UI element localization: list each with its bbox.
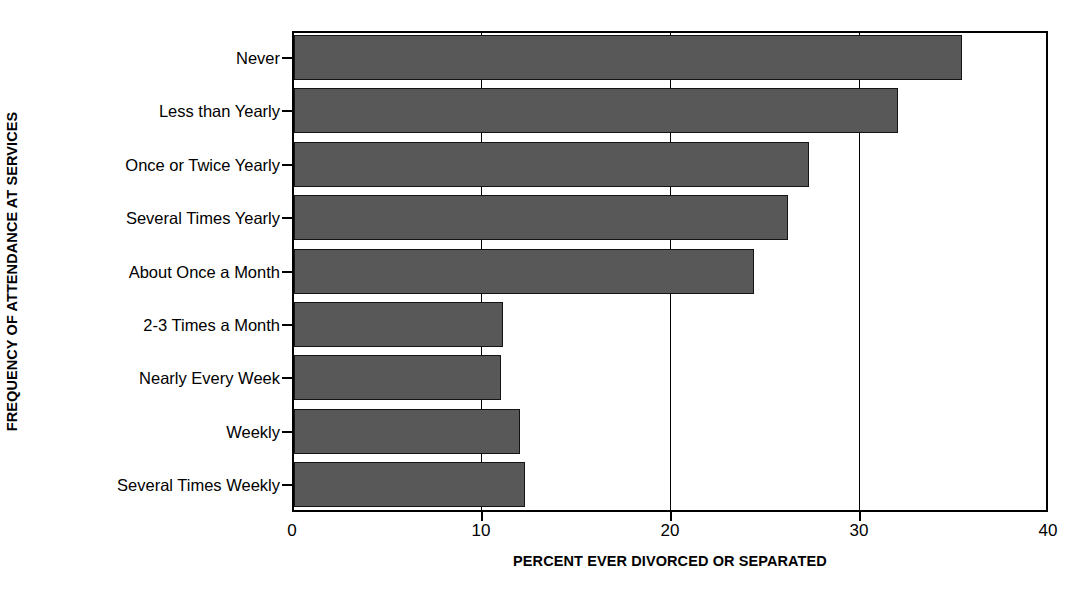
category-label: Several Times Yearly <box>126 208 280 228</box>
category-label: Weekly <box>226 422 280 442</box>
bar <box>294 195 788 240</box>
x-tick-label: 20 <box>640 521 700 541</box>
y-tick <box>282 217 293 219</box>
bar <box>294 35 962 80</box>
bar <box>294 142 809 187</box>
x-tick-label: 10 <box>451 521 511 541</box>
x-tick-10 <box>481 512 483 521</box>
y-tick <box>282 164 293 166</box>
bar <box>294 88 898 133</box>
y-tick <box>282 110 293 112</box>
bar <box>294 249 754 294</box>
x-tick-30 <box>859 512 861 521</box>
bar <box>294 409 520 454</box>
y-tick <box>282 271 293 273</box>
category-label: Less than Yearly <box>159 101 280 121</box>
x-tick-label: 30 <box>829 521 889 541</box>
bar <box>294 302 503 347</box>
category-label: Never <box>236 48 280 68</box>
y-axis-title: FREQUENCY OF ATTENDANCE AT SERVICES <box>0 31 24 512</box>
y-tick <box>282 484 293 486</box>
bar <box>294 355 501 400</box>
x-tick-label: 40 <box>1018 521 1078 541</box>
y-tick <box>282 324 293 326</box>
y-axis-category-labels: NeverLess than YearlyOnce or Twice Yearl… <box>40 31 280 512</box>
bar <box>294 462 525 507</box>
category-label: 2-3 Times a Month <box>143 315 280 335</box>
category-label: Once or Twice Yearly <box>125 155 280 175</box>
y-tick <box>282 431 293 433</box>
category-label: Nearly Every Week <box>139 368 280 388</box>
category-label: About Once a Month <box>129 262 280 282</box>
category-label: Several Times Weekly <box>117 475 280 495</box>
x-tick-20 <box>670 512 672 521</box>
plot-area <box>292 31 1048 512</box>
x-tick-label: 0 <box>262 521 322 541</box>
y-tick <box>282 377 293 379</box>
x-axis-title: PERCENT EVER DIVORCED OR SEPARATED <box>292 553 1048 569</box>
chart-root: FREQUENCY OF ATTENDANCE AT SERVICES Neve… <box>0 0 1081 600</box>
y-tick <box>282 57 293 59</box>
